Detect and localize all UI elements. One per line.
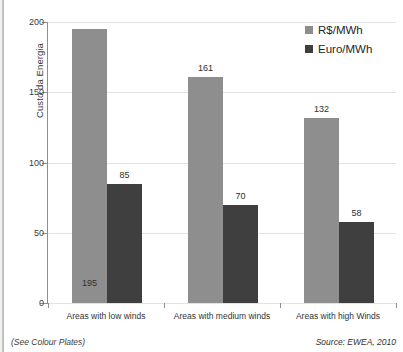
- chart-legend: R$/MWh Euro/MWh: [305, 24, 372, 62]
- bar-label-low-euro: 85: [107, 171, 142, 180]
- legend-label-euro: Euro/MWh: [318, 43, 372, 55]
- y-tick-label-50: 50: [10, 229, 44, 238]
- legend-item-euro[interactable]: Euro/MWh: [305, 43, 372, 55]
- category-tick-1: [164, 303, 165, 308]
- bar-label-high-rs: 132: [304, 105, 339, 114]
- bar-label-medium-euro: 70: [223, 192, 258, 201]
- category-label-low: Areas with low winds: [48, 311, 164, 321]
- colour-plates-note: (See Colour Plates): [11, 337, 85, 347]
- legend-label-rs: R$/MWh: [318, 24, 363, 36]
- bar-low-rs: [72, 29, 107, 303]
- bar-label-high-euro: 58: [339, 209, 374, 218]
- y-tick-label-150: 150: [10, 88, 44, 97]
- gridline-200: [48, 22, 396, 23]
- bar-medium-euro: [223, 205, 258, 303]
- legend-swatch-icon-euro: [305, 45, 313, 53]
- source-credit: Source: EWEA, 2010: [316, 337, 396, 347]
- y-tick-label-100: 100: [10, 159, 44, 168]
- bar-low-euro: [107, 184, 142, 303]
- bar-label-medium-rs: 161: [188, 64, 223, 73]
- category-tick-start: [48, 303, 49, 308]
- plot-area: Custo da Energia 0 50 100 150 200 195 85…: [48, 22, 396, 303]
- legend-swatch-icon-rs: [305, 26, 313, 34]
- bar-medium-rs: [188, 77, 223, 303]
- category-label-high: Areas with high Winds: [280, 311, 396, 321]
- category-label-medium: Areas with medium winds: [164, 311, 280, 321]
- gridline-0: [48, 303, 396, 304]
- y-axis-title: Custo da Energia: [34, 43, 45, 118]
- bar-high-rs: [304, 118, 339, 304]
- bar-label-low-rs: 195: [72, 279, 107, 288]
- legend-item-rs[interactable]: R$/MWh: [305, 24, 372, 36]
- y-tick-label-200: 200: [10, 18, 44, 27]
- bar-high-euro: [339, 222, 374, 304]
- bar-chart: Custo da Energia 0 50 100 150 200 195 85…: [0, 0, 403, 330]
- y-tick-label-0: 0: [10, 299, 44, 308]
- category-tick-2: [280, 303, 281, 308]
- category-tick-end: [396, 303, 397, 308]
